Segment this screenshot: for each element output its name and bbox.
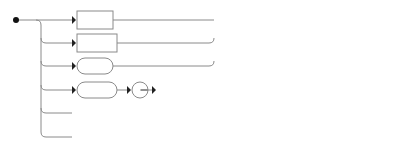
railroad-diagram [0, 0, 404, 158]
start-marker [13, 17, 19, 23]
node-literal[interactable] [77, 11, 113, 29]
node-super[interactable] [77, 82, 117, 98]
node-this[interactable] [77, 58, 113, 74]
node-name[interactable] [77, 34, 117, 52]
